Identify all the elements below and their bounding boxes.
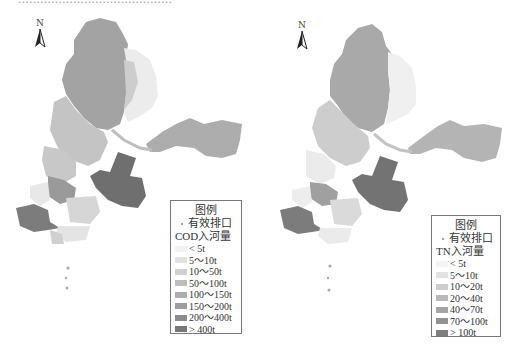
- outlet-point-icon: [181, 223, 183, 225]
- legend-class: 200～400t: [175, 312, 237, 324]
- legend-class: > 100t: [436, 327, 496, 339]
- river-connector: [374, 134, 412, 152]
- island: [328, 289, 331, 292]
- north-arrow: N: [294, 20, 310, 54]
- legend-class: 150～200t: [175, 301, 237, 313]
- region-southeast-dark: [352, 156, 408, 212]
- north-arrow-icon: [33, 28, 47, 48]
- tn-legend: 图例 有效排口 TN入河量 < 5t 5～10t 10～20t 20～40t 4…: [431, 215, 501, 337]
- region-south-center-2: [318, 228, 352, 244]
- region-south-center-1: [66, 196, 100, 224]
- legend-class: < 5t: [175, 243, 237, 255]
- island: [66, 266, 69, 269]
- tn-map-panel: N 图例 有效排口 TN入河量 < 5t 5～10t 10～20t 20～40t…: [258, 0, 513, 348]
- legend-class: 5～10t: [436, 270, 496, 282]
- region-south-center-1: [330, 198, 362, 226]
- cod-legend: 图例 有效排口 COD入河量 < 5t 5～10t 10～50t 50～100t…: [170, 200, 242, 334]
- north-label: N: [32, 18, 48, 28]
- legend-outlet: 有效排口: [175, 217, 237, 230]
- legend-class: 50～100t: [175, 278, 237, 290]
- island: [66, 287, 69, 290]
- north-arrow: N: [32, 18, 48, 52]
- legend-outlet: 有效排口: [436, 232, 496, 245]
- north-arrow-icon: [295, 30, 309, 50]
- region-east-arm: [408, 120, 502, 162]
- cod-map-panel: N 图例 有效排口 COD入河量 < 5t 5～10t 10～50t 50～10…: [0, 0, 258, 348]
- legend-field-label: TN入河量: [436, 245, 496, 258]
- legend-class: 10～20t: [436, 281, 496, 293]
- legend-class: > 400t: [175, 324, 237, 336]
- region-south-light: [30, 182, 50, 206]
- region-southwest-dark: [16, 204, 60, 232]
- river-connector: [112, 130, 152, 150]
- legend-class: 70～100t: [436, 316, 496, 328]
- legend-title: 图例: [436, 219, 496, 232]
- island: [327, 277, 329, 279]
- legend-class: 100～150t: [175, 289, 237, 301]
- legend-class: 5～10t: [175, 255, 237, 267]
- north-label: N: [294, 20, 310, 30]
- legend-class: < 5t: [436, 258, 496, 270]
- legend-class: 20～40t: [436, 293, 496, 305]
- legend-field-label: COD入河量: [175, 230, 237, 243]
- region-southwest-dark: [280, 206, 324, 234]
- legend-class: 10～50t: [175, 266, 237, 278]
- region-east-arm: [146, 118, 242, 158]
- legend-class: 40～70t: [436, 304, 496, 316]
- legend-title: 图例: [175, 204, 237, 217]
- island: [328, 264, 331, 267]
- island: [65, 277, 67, 279]
- region-east-strip: [386, 52, 416, 124]
- region-south-light: [292, 186, 312, 208]
- outlet-point-icon: [442, 238, 444, 240]
